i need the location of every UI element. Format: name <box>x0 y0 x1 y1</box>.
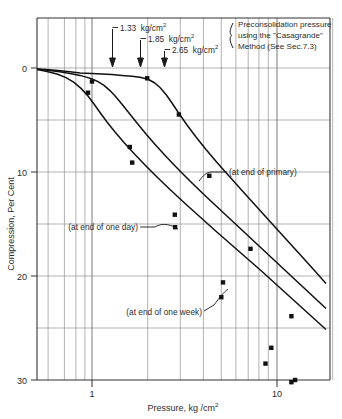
x-axis-title-main: Pressure, kg /cm <box>148 403 216 413</box>
ytick-label-0: 0 <box>22 64 27 74</box>
ytick-label-20: 20 <box>17 272 27 282</box>
x-axis-title: Pressure, kg /cm2 <box>148 401 220 413</box>
arrow-label-1-85: 1.85 kg/cm2 <box>148 33 194 43</box>
chart-background <box>0 0 342 419</box>
figure-consolidation-curves: 0 10 20 30 1 10 Compression, Per Cent Pr… <box>0 0 342 419</box>
chart-svg: 0 10 20 30 1 10 Compression, Per Cent Pr… <box>0 0 342 419</box>
arrow-label-2-65-value: 2.65 <box>172 45 189 55</box>
arrow-label-1-85-exponent: 2 <box>191 33 194 39</box>
curve-label-one-week: (at end of one week) <box>126 307 202 317</box>
arrow-label-1-33-value: 1.33 <box>120 23 137 33</box>
arrow-label-1-85-units: kg/cm <box>169 34 191 44</box>
xtick-label-10: 10 <box>272 389 282 399</box>
note-line-2: using the "Casagrande" <box>238 31 323 40</box>
curve-label-one-day: (at end of one day) <box>68 222 138 232</box>
x-axis-title-exponent: 2 <box>215 401 219 408</box>
arrow-label-1-33: 1.33 kg/cm2 <box>120 22 166 32</box>
ytick-label-30: 30 <box>17 376 27 386</box>
curve-label-primary: (at end of primary) <box>229 167 297 177</box>
y-axis-title: Compression, Per Cent <box>6 177 16 271</box>
ytick-label-10: 10 <box>17 168 27 178</box>
arrow-label-1-85-value: 1.85 <box>148 34 165 44</box>
arrow-label-2-65-units: kg/cm <box>193 45 215 55</box>
note-line-1: Preconsolidation pressure <box>238 20 332 29</box>
arrow-label-1-33-units: kg/cm <box>141 23 163 33</box>
arrow-label-1-33-exponent: 2 <box>163 22 166 28</box>
arrow-label-2-65-exponent: 2 <box>215 44 218 50</box>
note-line-3: Method (See Sec.7.3) <box>238 42 317 51</box>
arrow-label-2-65: 2.65 kg/cm2 <box>172 44 218 54</box>
xtick-label-1: 1 <box>89 389 94 399</box>
